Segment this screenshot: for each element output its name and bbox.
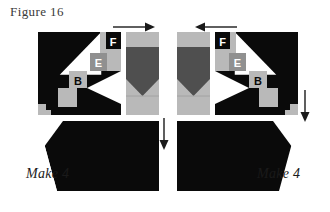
patch-light-lower: [58, 88, 77, 107]
patch-cell-b: [249, 71, 267, 88]
patch-cell-f: [215, 32, 230, 49]
patch-light-left-of-e: [215, 53, 229, 71]
arrow-down-icon: [301, 90, 310, 122]
patch-cell-b: [69, 71, 87, 88]
left-side-strip: [126, 32, 159, 115]
left-block-group: F E B: [0, 0, 170, 212]
patch-light-lower: [259, 88, 278, 107]
arrow-left-icon: [195, 23, 237, 32]
arrow-right-icon: [113, 23, 155, 32]
patch-cell-e: [229, 53, 246, 71]
figure-page: Figure 16: [0, 0, 330, 212]
make-label-right: Make 4: [257, 166, 300, 182]
patch-dark-corner-accent: [284, 104, 290, 110]
patch-light-right-of-e: [107, 53, 121, 71]
strip-dark-band: [126, 47, 159, 79]
patch-cell-e: [90, 53, 107, 71]
make-label-left: Make 4: [26, 166, 69, 182]
patch-cell-f: [106, 32, 121, 49]
right-block-group: F E B Make: [160, 0, 330, 212]
patch-dark-corner-accent: [46, 104, 52, 110]
strip-dark-band: [177, 47, 210, 79]
right-side-strip: [177, 32, 210, 115]
